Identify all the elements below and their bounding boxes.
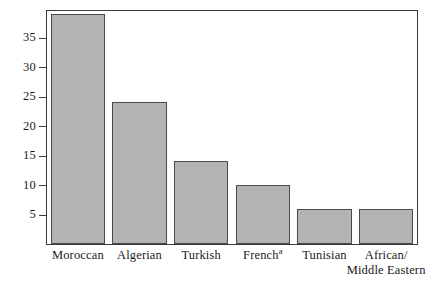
bar bbox=[174, 161, 228, 244]
y-axis-tick-label-wrap: 15 bbox=[0, 149, 36, 161]
bar bbox=[236, 185, 290, 244]
bar bbox=[51, 14, 105, 244]
y-axis-tick-label-wrap: 35 bbox=[0, 31, 36, 43]
y-axis-tick-label: 35 bbox=[2, 31, 36, 44]
y-axis-tick-label-wrap: 5 bbox=[0, 208, 36, 220]
y-axis-tick-label: 25 bbox=[2, 90, 36, 103]
y-axis-tick-label: 5 bbox=[2, 208, 36, 221]
bar bbox=[297, 209, 351, 244]
bars-layer bbox=[47, 11, 417, 244]
x-axis-label-text: Turkish bbox=[181, 248, 221, 262]
y-axis-tick-label-wrap: 30 bbox=[0, 61, 36, 73]
x-axis-label-text-line2: Middle Eastern bbox=[340, 263, 433, 278]
bar bbox=[112, 102, 166, 244]
x-axis-label-text: French bbox=[243, 248, 279, 262]
y-axis-tick-label: 15 bbox=[2, 149, 36, 162]
x-axis-labels: MoroccanAlgerianTurkishFrenchaTunisianAf… bbox=[47, 248, 417, 288]
bar-chart: 5101520253035 MoroccanAlgerianTurkishFre… bbox=[0, 0, 435, 289]
y-axis-tick-label: 20 bbox=[2, 120, 36, 133]
y-axis-tick-label: 30 bbox=[2, 61, 36, 74]
y-axis-tick-label-wrap: 10 bbox=[0, 179, 36, 191]
y-axis-tick-label: 10 bbox=[2, 179, 36, 192]
bar bbox=[359, 209, 413, 244]
x-axis-label-text: African/ bbox=[365, 248, 408, 262]
x-axis-label: African/Middle Eastern bbox=[340, 248, 433, 278]
y-axis-tick-label-wrap: 25 bbox=[0, 90, 36, 102]
y-axis-tick-label-wrap: 20 bbox=[0, 120, 36, 132]
